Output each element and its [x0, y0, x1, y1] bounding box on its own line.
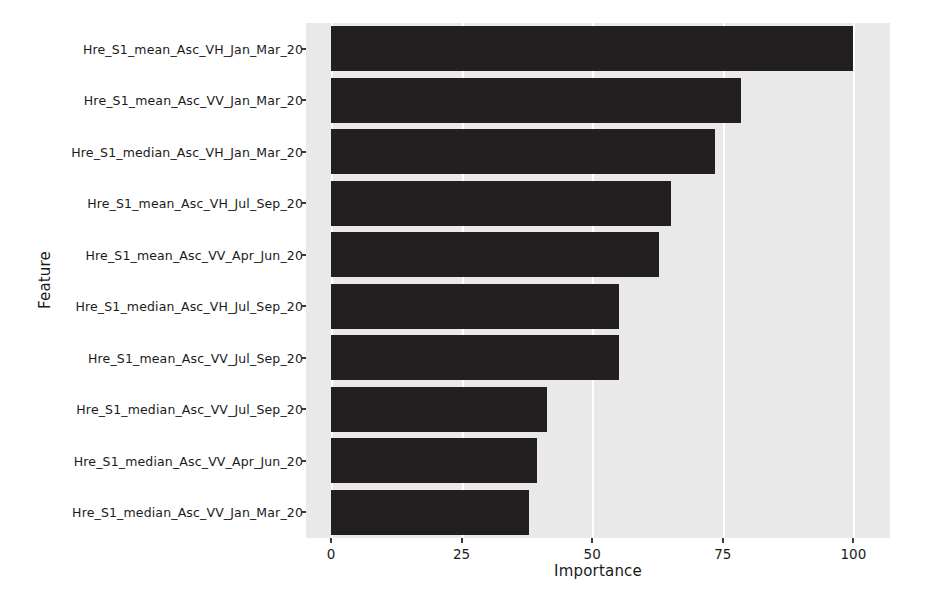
bar[interactable]: [331, 387, 547, 432]
bar[interactable]: [331, 26, 853, 71]
y-tick-label: Hre_S1_mean_Asc_VH_Jul_Sep_20: [87, 196, 303, 211]
y-tick-label: Hre_S1_median_Asc_VV_Jul_Sep_20: [76, 402, 303, 417]
y-tick-label: Hre_S1_mean_Asc_VV_Apr_Jun_20: [86, 247, 304, 262]
y-tick-label: Hre_S1_median_Asc_VV_Jan_Mar_20: [72, 505, 303, 520]
y-tick-label: Hre_S1_median_Asc_VV_Apr_Jun_20: [74, 453, 303, 468]
bar[interactable]: [331, 284, 619, 329]
bar[interactable]: [331, 232, 659, 277]
x-tick-label-25: 25: [453, 546, 470, 562]
y-axis-title: Feature: [34, 0, 56, 560]
y-tick-label: Hre_S1_median_Asc_VH_Jan_Mar_20: [71, 144, 303, 159]
x-tick-label-50: 50: [584, 546, 601, 562]
y-axis-tick-labels: Hre_S1_mean_Asc_VH_Jan_Mar_20Hre_S1_mean…: [60, 0, 303, 605]
x-tick-label-0: 0: [327, 546, 336, 562]
x-tick-label-100: 100: [841, 546, 867, 562]
bar[interactable]: [331, 129, 715, 174]
x-tick-mark-25: [461, 538, 463, 543]
plot-area: [306, 23, 890, 538]
bar[interactable]: [331, 78, 741, 123]
bar-row: [306, 490, 890, 535]
x-tick-mark-50: [591, 538, 593, 543]
x-tick-mark-75: [722, 538, 724, 543]
y-tick-label: Hre_S1_mean_Asc_VH_Jan_Mar_20: [83, 41, 303, 56]
y-tick-label: Hre_S1_mean_Asc_VV_Jul_Sep_20: [88, 350, 303, 365]
x-tick-mark-0: [330, 538, 332, 543]
y-axis-title-text: Feature: [36, 251, 54, 309]
bar-row: [306, 335, 890, 380]
bar-row: [306, 284, 890, 329]
bar[interactable]: [331, 335, 619, 380]
bar-row: [306, 26, 890, 71]
x-axis-title: Importance: [306, 562, 890, 580]
bar-series: [306, 23, 890, 538]
x-tick-mark-100: [852, 538, 854, 543]
y-tick-label: Hre_S1_median_Asc_VH_Jul_Sep_20: [75, 299, 303, 314]
y-tick-label: Hre_S1_mean_Asc_VV_Jan_Mar_20: [84, 93, 303, 108]
bar-row: [306, 78, 890, 123]
bar[interactable]: [331, 181, 671, 226]
bar-row: [306, 232, 890, 277]
bar-row: [306, 181, 890, 226]
bar[interactable]: [331, 490, 529, 535]
bar-row: [306, 438, 890, 483]
bar[interactable]: [331, 438, 537, 483]
bar-row: [306, 387, 890, 432]
x-tick-label-75: 75: [714, 546, 731, 562]
feature-importance-chart: Feature Hre_S1_mean_Asc_VH_Jan_Mar_20Hre…: [0, 0, 932, 605]
bar-row: [306, 129, 890, 174]
